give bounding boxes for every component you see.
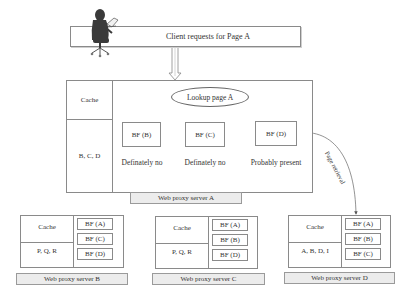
bloom-filter: BF (C) <box>345 248 381 260</box>
result-bf-c: Definately no <box>181 158 229 167</box>
bf-label: BF (B) <box>132 131 152 139</box>
bf-label: BF (C) <box>85 235 105 243</box>
bloom-filter: BF (A) <box>212 219 248 231</box>
bloom-filter-c: BF (C) <box>185 122 225 147</box>
bf-label: BF (B) <box>353 235 373 243</box>
web-proxy-server-d: Cache A, B, D, I BF (A) BF (B) BF (C) <box>288 215 391 268</box>
bloom-filter-b: BF (B) <box>122 122 161 147</box>
bloom-filter: BF (B) <box>212 234 248 246</box>
bf-label: BF (A) <box>220 221 240 229</box>
divider <box>112 81 113 192</box>
server-b-name-label: Web proxy server B <box>16 273 128 285</box>
lookup-page-ellipse: Lookup page A <box>171 87 249 107</box>
request-arrow-icon <box>169 47 181 80</box>
cache-label: Cache <box>67 81 112 119</box>
divider <box>73 216 74 267</box>
cache-label: Cache <box>21 216 73 238</box>
server-d-name-label: Web proxy server D <box>284 272 395 284</box>
bf-label: BF (C) <box>195 131 215 139</box>
server-name: Web proxy server D <box>311 274 367 282</box>
web-proxy-server-c: Cache P, Q, R BF (A) BF (B) BF (D) <box>155 216 258 269</box>
bf-label: BF (D) <box>220 251 240 259</box>
client-request-bar: Client requests for Page A <box>70 26 301 47</box>
bf-label: BF (D) <box>85 250 105 258</box>
bf-label: BF (D) <box>266 130 286 138</box>
result-bf-d: Probably present <box>246 158 306 167</box>
cache-contents: P, Q, R <box>21 243 73 259</box>
bf-label: BF (A) <box>353 220 373 228</box>
result-bf-b: Definately no <box>118 158 166 167</box>
cache-label: Cache <box>289 216 341 238</box>
cache-contents: P, Q, R <box>156 244 208 260</box>
lookup-label: Lookup page A <box>187 93 233 102</box>
bloom-filter: BF (B) <box>345 233 381 245</box>
bf-label: BF (C) <box>353 250 373 258</box>
server-name: Web proxy server B <box>44 275 100 283</box>
bf-label: BF (B) <box>220 236 240 244</box>
web-proxy-server-b: Cache P, Q, R BF (A) BF (C) BF (D) <box>20 215 124 268</box>
server-name: Web proxy server C <box>180 275 236 283</box>
bloom-filter: BF (D) <box>77 248 113 260</box>
bloom-filter: BF (C) <box>77 233 113 245</box>
cache-contents: B, C, D <box>67 120 112 192</box>
cache-label: Cache <box>156 217 208 239</box>
bf-label: BF (A) <box>85 220 105 228</box>
server-name: Web proxy server A <box>158 194 214 202</box>
bloom-filter: BF (D) <box>212 249 248 261</box>
client-request-label: Client requests for Page A <box>166 32 250 41</box>
divider <box>341 216 342 267</box>
server-c-name-label: Web proxy server C <box>152 273 265 285</box>
bloom-filter-d: BF (D) <box>255 121 297 146</box>
bloom-filter: BF (A) <box>345 218 381 230</box>
server-a-name-label: Web proxy server A <box>130 192 242 204</box>
cache-contents: A, B, D, I <box>289 243 341 259</box>
bloom-filter: BF (A) <box>77 218 113 230</box>
divider <box>208 217 209 268</box>
